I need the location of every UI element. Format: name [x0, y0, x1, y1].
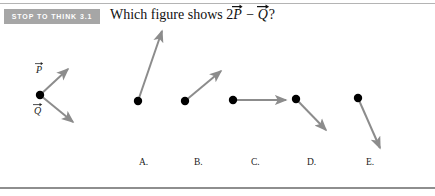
choice-e-arrow: [354, 94, 380, 148]
choice-d-arrow: [292, 95, 326, 130]
choice-b-arrow: [181, 71, 221, 105]
choice-c-arrow: [229, 96, 286, 104]
given-vector-q-arrow: [40, 95, 73, 122]
choice-label-e: E.: [366, 157, 374, 167]
label-p-letter: P: [36, 64, 42, 75]
given-vector-origin-dot: [36, 91, 44, 99]
given-vector-q-label: Q: [34, 105, 42, 116]
choice-c-dot: [229, 96, 237, 104]
stop-to-think-figure: STOP TO THINK 3.1 Which figure shows 2P …: [0, 0, 435, 196]
choice-a-dot: [134, 97, 142, 105]
label-q-symbol: Q: [34, 105, 42, 116]
given-vector-p-label: P: [36, 64, 43, 75]
choice-label-a: A.: [139, 157, 148, 167]
choice-d-dot: [292, 95, 300, 103]
label-q-letter: Q: [34, 105, 41, 116]
choice-label-b: B.: [194, 157, 203, 167]
choice-label-c: C.: [251, 157, 260, 167]
choice-label-d: D.: [307, 157, 316, 167]
choice-a-arrow: [134, 31, 162, 105]
choice-b-dot: [181, 97, 189, 105]
label-p-symbol: P: [36, 64, 43, 75]
bottom-divider: [0, 187, 435, 189]
choice-e-dot: [354, 94, 362, 102]
given-vector-p-arrow: [40, 69, 68, 95]
